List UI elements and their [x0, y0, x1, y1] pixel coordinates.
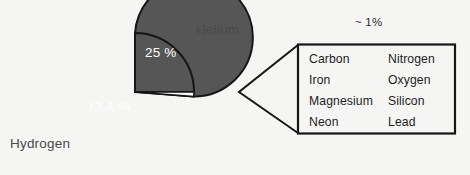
callout-percent-label: ~ 1%: [355, 17, 382, 29]
callout-element-neon: Neon: [309, 116, 339, 128]
callout-element-oxygen: Oxygen: [388, 74, 431, 86]
callout-element-nitrogen: Nitrogen: [388, 53, 435, 65]
pie-slice-other: [135, 92, 194, 97]
callout-element-lead: Lead: [388, 116, 416, 128]
pie-label-hydrogen-name: Hydrogen: [10, 137, 70, 151]
pie-label-hydrogen-percent: 73.4 %: [87, 100, 130, 114]
callout-element-iron: Iron: [309, 74, 330, 86]
pie-label-helium-name: Helium: [196, 23, 239, 37]
pie-chart-figure: 25 % 73.4 % Hydrogen Helium ~ 1% Carbon …: [0, 0, 470, 175]
pie-label-helium-percent: 25 %: [145, 46, 177, 60]
callout-element-carbon: Carbon: [309, 53, 350, 65]
callout-element-silicon: Silicon: [388, 95, 425, 107]
callout-element-magnesium: Magnesium: [309, 95, 373, 107]
